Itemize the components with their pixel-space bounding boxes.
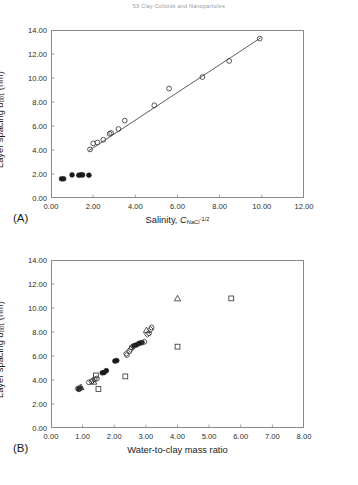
data-point bbox=[96, 387, 101, 392]
panel-b-y-tick-labels: 0.002.004.006.008.0010.0012.0014.00 bbox=[9, 260, 47, 428]
x-tick-label: 10.00 bbox=[252, 202, 271, 211]
y-tick-label: 8.00 bbox=[32, 328, 47, 337]
y-tick-label: 6.00 bbox=[32, 352, 47, 361]
data-point bbox=[94, 373, 99, 378]
data-point bbox=[87, 173, 92, 178]
x-tick-label: 6.00 bbox=[233, 432, 248, 441]
data-point bbox=[109, 131, 114, 136]
y-tick-label: 12.00 bbox=[28, 280, 47, 289]
panel-b-x-axis-title: Water-to-clay mass ratio bbox=[51, 445, 304, 455]
panel-a-y-tick-labels: 0.002.004.006.008.0010.0012.0014.00 bbox=[9, 30, 47, 198]
data-point bbox=[114, 358, 119, 363]
x-tick-label: 8.00 bbox=[297, 432, 312, 441]
panel-b-label: (B) bbox=[13, 442, 28, 454]
data-point bbox=[80, 173, 85, 178]
panel-a-data-layer bbox=[51, 30, 304, 198]
data-point bbox=[152, 103, 157, 108]
running-header: 53 Clay Colloids and Nanoparticles bbox=[0, 0, 358, 9]
data-point bbox=[200, 75, 205, 80]
y-tick-label: 10.00 bbox=[28, 304, 47, 313]
y-tick-label: 8.00 bbox=[32, 98, 47, 107]
data-point bbox=[70, 173, 75, 178]
trend-line bbox=[89, 38, 261, 151]
panel-b-x-tick-labels: 0.001.002.003.004.005.006.007.008.00 bbox=[51, 432, 304, 444]
data-point bbox=[122, 118, 127, 123]
panel-a-x-axis-title: Salinity, CNaCl-1/2 bbox=[51, 215, 304, 225]
data-point bbox=[123, 374, 128, 379]
x-tick-label: 0.00 bbox=[44, 432, 59, 441]
data-point bbox=[175, 344, 180, 349]
x-tick-label: 5.00 bbox=[202, 432, 217, 441]
y-tick-label: 6.00 bbox=[32, 122, 47, 131]
y-tick-label: 14.00 bbox=[28, 256, 47, 265]
panel-b-data-layer bbox=[51, 260, 304, 428]
y-tick-label: 2.00 bbox=[32, 400, 47, 409]
data-point bbox=[167, 86, 172, 91]
data-point bbox=[95, 140, 100, 145]
panel-a: 0.002.004.006.008.0010.0012.0014.00 0.00… bbox=[0, 9, 358, 249]
x-tick-label: 4.00 bbox=[170, 432, 185, 441]
panel-a-y-axis-title: Layer spacing d001 (nm) bbox=[0, 71, 5, 168]
x-tick-label: 4.00 bbox=[128, 202, 143, 211]
y-tick-label: 4.00 bbox=[32, 376, 47, 385]
panel-a-label: (A) bbox=[13, 212, 28, 224]
x-tick-label: 3.00 bbox=[138, 432, 153, 441]
x-tick-label: 2.00 bbox=[107, 432, 122, 441]
data-point bbox=[104, 368, 109, 373]
x-tick-label: 12.00 bbox=[294, 202, 313, 211]
panel-a-x-tick-labels: 0.002.004.006.008.0010.0012.00 bbox=[51, 202, 304, 214]
x-tick-label: 6.00 bbox=[170, 202, 185, 211]
y-tick-label: 12.00 bbox=[28, 50, 47, 59]
data-point bbox=[116, 127, 121, 132]
data-point bbox=[88, 147, 93, 152]
data-point bbox=[174, 295, 180, 301]
figure-page: 53 Clay Colloids and Nanoparticles 0.002… bbox=[0, 0, 358, 485]
x-tick-label: 0.00 bbox=[44, 202, 59, 211]
x-tick-label: 2.00 bbox=[86, 202, 101, 211]
data-point bbox=[229, 296, 234, 301]
data-point bbox=[61, 176, 66, 181]
x-tick-label: 8.00 bbox=[212, 202, 227, 211]
y-tick-label: 14.00 bbox=[28, 26, 47, 35]
panel-b-y-axis-title: Layer spacing d001 (nm) bbox=[0, 301, 5, 398]
data-point bbox=[101, 137, 106, 142]
x-tick-label: 7.00 bbox=[265, 432, 280, 441]
panel-b-plot-area bbox=[51, 260, 304, 428]
x-tick-label: 1.00 bbox=[75, 432, 90, 441]
panel-b: 0.002.004.006.008.0010.0012.0014.00 0.00… bbox=[0, 249, 358, 485]
y-tick-label: 4.00 bbox=[32, 146, 47, 155]
data-point bbox=[227, 59, 232, 64]
data-point bbox=[257, 36, 262, 41]
panel-a-plot-area bbox=[51, 30, 304, 198]
y-tick-label: 2.00 bbox=[32, 170, 47, 179]
y-tick-label: 10.00 bbox=[28, 74, 47, 83]
